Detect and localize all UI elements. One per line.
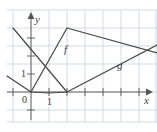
y-axis-label: y	[35, 14, 40, 25]
origin-label: 0	[22, 95, 27, 105]
graph-figure: y x 0 1 1 f g	[0, 0, 157, 132]
curve-label-g: g	[117, 60, 123, 71]
x-axis-label: x	[144, 95, 149, 106]
curve-g	[7, 45, 157, 93]
curve-f	[31, 28, 157, 92]
y-axis-arrow	[28, 12, 35, 19]
curve-descending-line	[13, 28, 67, 92]
plot-canvas	[0, 0, 157, 132]
grid-lines	[7, 10, 157, 122]
y-unit-label: 1	[21, 69, 26, 79]
x-unit-label: 1	[47, 97, 52, 107]
curve-label-f: f	[64, 44, 67, 55]
